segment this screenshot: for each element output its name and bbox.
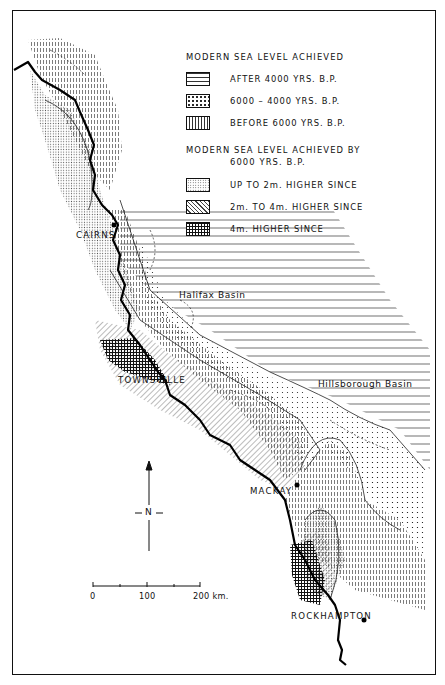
label-rockhampton: ROCKHAMPTON: [291, 611, 372, 621]
scale-bar: [93, 582, 200, 587]
legend: MODERN SEA LEVEL ACHIEVED AFTER 4000 YRS…: [186, 52, 436, 240]
legend-item-6000-4000: 6000 – 4000 YRS. B.P.: [186, 90, 436, 112]
legend-label: AFTER 4000 YRS. B.P.: [230, 74, 338, 84]
stipple-swatch-icon: [186, 178, 210, 192]
legend-item-before-6000: BEFORE 6000 YRS. B.P.: [186, 112, 436, 134]
horizontal-lines-swatch-icon: [186, 72, 210, 86]
label-hillsborough-basin: Hillsborough Basin: [318, 379, 413, 389]
north-arrow-icon: [135, 461, 163, 551]
scale-tick-200: 200 km.: [193, 591, 229, 601]
cross-hatch-swatch-icon: [186, 222, 210, 236]
legend-item-2m-to-4m: 2m. TO 4m. HIGHER SINCE: [186, 196, 436, 218]
legend-item-4m: 4m. HIGHER SINCE: [186, 218, 436, 240]
label-mackay: MACKAY: [250, 486, 292, 496]
vertical-dashes-swatch-icon: [186, 116, 210, 130]
cairns-marker: [112, 223, 117, 228]
legend-label: BEFORE 6000 YRS. B.P.: [230, 118, 345, 128]
legend-label: 2m. TO 4m. HIGHER SINCE: [230, 202, 363, 212]
legend-heading-2-line2: 6000 YRS. B.P.: [186, 156, 436, 168]
label-townsville: TOWNSVILLE: [118, 375, 186, 385]
legend-heading-1: MODERN SEA LEVEL ACHIEVED: [186, 52, 436, 62]
legend-label: 6000 – 4000 YRS. B.P.: [230, 96, 340, 106]
legend-label: 4m. HIGHER SINCE: [230, 224, 324, 234]
label-halifax-basin: Halifax Basin: [179, 290, 246, 300]
north-label: N: [145, 507, 152, 517]
dots-swatch-icon: [186, 94, 210, 108]
legend-label: UP TO 2m. HIGHER SINCE: [230, 180, 357, 190]
diagonal-hatch-swatch-icon: [186, 200, 210, 214]
scale-tick-0: 0: [90, 591, 96, 601]
legend-item-up-to-2m: UP TO 2m. HIGHER SINCE: [186, 174, 436, 196]
scale-tick-100: 100: [139, 591, 156, 601]
legend-item-after-4000: AFTER 4000 YRS. B.P.: [186, 68, 436, 90]
label-cairns: CAIRNS: [76, 230, 115, 240]
mackay-marker: [295, 483, 300, 488]
legend-heading-2-line1: MODERN SEA LEVEL ACHIEVED BY: [186, 145, 360, 155]
legend-heading-2: MODERN SEA LEVEL ACHIEVED BY 6000 YRS. B…: [186, 144, 436, 168]
